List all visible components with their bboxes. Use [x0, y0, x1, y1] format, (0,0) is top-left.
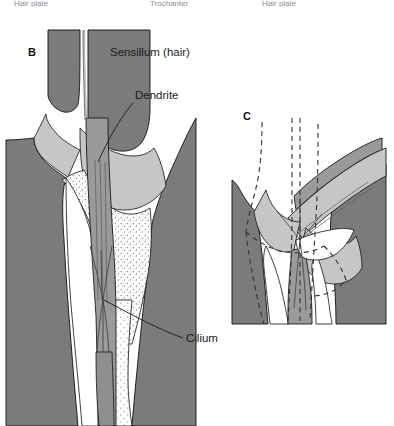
header-fragment-right: Hair plate [262, 0, 297, 8]
figure-canvas: Hair plate Trochanter Hair plate [0, 0, 394, 426]
callout-label-dendrite: Dendrite [135, 89, 178, 101]
callout-label-sensillum: Sensillum (hair) [110, 46, 190, 58]
panel-letter-c: C [243, 110, 251, 122]
header-fragment-left: Hair plate [14, 0, 49, 8]
deflection-arrow-icon [318, 65, 366, 78]
header-row: Hair plate Trochanter Hair plate [14, 0, 297, 8]
diagram-svg: Hair plate Trochanter Hair plate [0, 0, 394, 426]
header-fragment-mid: Trochanter [150, 0, 189, 8]
hair-shaft-left-b [48, 30, 80, 112]
basal-body-b [96, 352, 114, 426]
callout-label-cilium: Cilium [186, 332, 218, 344]
panel-c-artwork [232, 65, 386, 324]
panel-letter-b: B [28, 46, 36, 58]
